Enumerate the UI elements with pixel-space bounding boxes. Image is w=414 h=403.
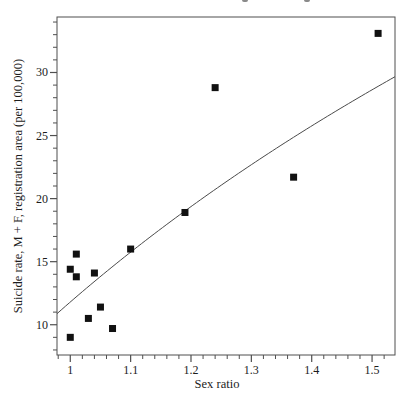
data-point — [73, 273, 80, 280]
x-tick-label: 1.3 — [244, 364, 259, 376]
y-axis-label: Suicide rate, M + F, registration area (… — [11, 59, 26, 313]
plot-frame — [57, 17, 395, 355]
data-point — [181, 209, 188, 216]
scatter-plot-figure: Suicide rate, M + F, registration area (… — [0, 0, 414, 403]
data-point — [73, 251, 80, 258]
data-point — [85, 315, 92, 322]
fit-curve — [57, 77, 395, 314]
x-tick-label: 1.2 — [183, 364, 198, 376]
y-tick-label: 15 — [18, 256, 48, 268]
x-tick-label: 1.4 — [304, 364, 319, 376]
data-point — [91, 270, 98, 277]
data-point — [375, 30, 382, 37]
x-tick-label: 1.1 — [123, 364, 138, 376]
x-tick-label: 1.5 — [365, 364, 380, 376]
x-axis-label: Sex ratio — [195, 377, 240, 392]
y-tick-label: 30 — [18, 66, 48, 78]
data-point — [67, 266, 74, 273]
y-tick-label: 20 — [18, 193, 48, 205]
data-point — [97, 304, 104, 311]
data-point — [212, 84, 219, 91]
plot-area — [0, 0, 414, 403]
data-point — [109, 325, 116, 332]
y-tick-label: 10 — [18, 319, 48, 331]
data-point — [290, 174, 297, 181]
y-tick-label: 25 — [18, 130, 48, 142]
data-point — [127, 246, 134, 253]
x-tick-label: 1 — [67, 364, 73, 376]
data-point — [67, 334, 74, 341]
